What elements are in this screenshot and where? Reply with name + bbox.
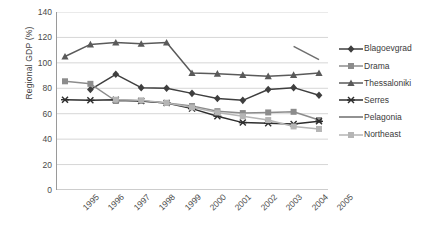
x-axis-tick-label: 1999 xyxy=(182,192,202,212)
data-point xyxy=(113,97,119,103)
x-axis-tick-label: 2005 xyxy=(335,192,355,212)
data-point xyxy=(239,97,246,105)
legend-item-thessaloniki[interactable]: Thessaloniki xyxy=(338,74,435,91)
legend-item-label: Drama xyxy=(364,62,390,71)
data-point xyxy=(316,126,322,132)
legend-marker-icon xyxy=(338,129,364,141)
series-line xyxy=(90,74,319,100)
data-point xyxy=(291,109,297,115)
y-axis-tick-label: 0 xyxy=(26,185,52,195)
y-axis-tick-label: 60 xyxy=(26,109,52,119)
data-point xyxy=(316,91,323,99)
data-point xyxy=(214,109,220,115)
data-point xyxy=(87,86,94,94)
x-axis-tick-label: 1998 xyxy=(157,192,177,212)
x-axis-tick-label: 1996 xyxy=(106,192,126,212)
legend-item-northeast[interactable]: Northeast xyxy=(338,126,435,143)
series-pelagonia xyxy=(294,46,319,59)
y-axis-tick-label: 20 xyxy=(26,160,52,170)
legend-marker-icon xyxy=(338,60,364,72)
data-point xyxy=(112,71,119,79)
data-point xyxy=(163,84,170,92)
data-point xyxy=(265,86,272,94)
data-point xyxy=(87,81,93,87)
data-point xyxy=(265,109,271,115)
data-point xyxy=(86,97,94,103)
y-axis-tick-label: 120 xyxy=(26,32,52,42)
legend-item-label: Serres xyxy=(364,96,389,105)
legend-marker-icon xyxy=(338,43,364,55)
legend-marker-icon xyxy=(338,94,364,106)
legend-marker-icon xyxy=(338,77,364,89)
data-point xyxy=(189,90,196,98)
data-point xyxy=(138,84,145,92)
data-point xyxy=(138,97,144,103)
legend-item-label: Blagoevgrad xyxy=(364,44,412,53)
y-axis-tick-label: 40 xyxy=(26,134,52,144)
x-axis-tick-labels: 1995199619971998199920002001200220032004… xyxy=(56,192,328,228)
legend-item-pelagonia[interactable]: Pelagonia xyxy=(338,109,435,126)
legend-marker-icon xyxy=(338,111,364,123)
legend-item-serres[interactable]: Serres xyxy=(338,92,435,109)
x-axis-tick-label: 2002 xyxy=(258,192,278,212)
chart-legend: BlagoevgradDramaThessalonikiSerresPelago… xyxy=(338,40,435,143)
chart-figure: Regional GDP (%) 020406080100120140 1995… xyxy=(0,0,435,228)
data-point xyxy=(189,104,195,110)
data-point xyxy=(61,53,68,60)
x-axis-tick-label: 2004 xyxy=(309,192,329,212)
data-point xyxy=(62,78,68,84)
series-line xyxy=(294,46,319,59)
data-point xyxy=(291,123,297,129)
data-point xyxy=(164,100,170,106)
series-canvas xyxy=(56,12,328,190)
x-axis-tick-label: 2001 xyxy=(233,192,253,212)
series-thessaloniki xyxy=(61,39,322,79)
plot-area xyxy=(56,12,328,190)
data-point xyxy=(240,113,246,119)
y-axis-tick-label: 80 xyxy=(26,83,52,93)
data-point xyxy=(214,95,221,103)
data-point xyxy=(290,84,297,92)
x-axis-tick-label: 2000 xyxy=(208,192,228,212)
data-point xyxy=(61,97,69,103)
x-axis-tick-label: 2003 xyxy=(284,192,304,212)
x-axis-tick-label: 1997 xyxy=(131,192,151,212)
legend-item-label: Thessaloniki xyxy=(364,79,411,88)
legend-item-blagoevgrad[interactable]: Blagoevgrad xyxy=(338,40,435,57)
y-axis-tick-label: 100 xyxy=(26,58,52,68)
data-point xyxy=(265,117,271,123)
x-axis-tick-label: 1995 xyxy=(81,192,101,212)
data-point xyxy=(239,120,247,126)
legend-item-label: Northeast xyxy=(364,130,401,139)
y-axis-tick-labels: 020406080100120140 xyxy=(24,12,52,190)
legend-item-label: Pelagonia xyxy=(364,113,402,122)
y-axis-tick-label: 140 xyxy=(26,7,52,17)
legend-item-drama[interactable]: Drama xyxy=(338,57,435,74)
